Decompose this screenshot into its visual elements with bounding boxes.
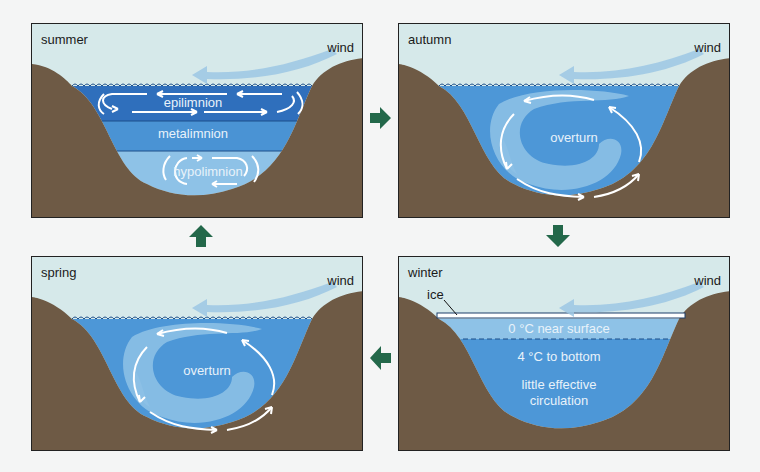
layer-label-epilimnion: epilimnion — [164, 95, 223, 110]
wind-arrow-icon — [559, 49, 704, 84]
season-label: spring — [41, 265, 76, 280]
layer-label-metalimnion: metalimnion — [158, 126, 228, 141]
panel-autumn: autumn wind overturn — [398, 23, 730, 218]
wind-arrow-icon — [192, 282, 337, 317]
layer-label-hypolimnion: hypolimnion — [173, 164, 242, 179]
ice-label: ice — [427, 287, 444, 302]
autumn-lake-illustration — [399, 24, 730, 218]
surface-temperature-label: 0 °C near surface — [508, 321, 609, 336]
spring-lake-illustration — [32, 257, 363, 451]
season-label: winter — [408, 265, 443, 280]
arrow-left-icon — [369, 345, 393, 371]
circulation-note-line2: circulation — [530, 393, 589, 408]
wind-label: wind — [327, 40, 354, 55]
season-label: summer — [41, 32, 88, 47]
wind-arrow-icon — [192, 49, 337, 84]
overturn-label: overturn — [183, 363, 231, 378]
panel-spring: spring wind overturn — [31, 256, 363, 451]
panel-winter: winter wind ice 0 °C near surface 4 °C t… — [398, 256, 730, 451]
wind-label: wind — [327, 273, 354, 288]
season-label: autumn — [408, 32, 451, 47]
wind-label: wind — [694, 40, 721, 55]
bottom-temperature-label: 4 °C to bottom — [517, 349, 600, 364]
arrow-up-icon — [188, 224, 214, 248]
arrow-down-icon — [545, 224, 571, 248]
ice-layer — [437, 313, 685, 318]
summer-lake-illustration — [32, 24, 363, 218]
wind-label: wind — [694, 273, 721, 288]
arrow-right-icon — [368, 106, 392, 130]
circulation-note-line1: little effective — [522, 377, 597, 392]
panel-summer: summer wind epilimnion metalimnion hypol… — [31, 23, 363, 218]
overturn-label: overturn — [550, 130, 598, 145]
wind-arrow-icon — [559, 282, 704, 317]
